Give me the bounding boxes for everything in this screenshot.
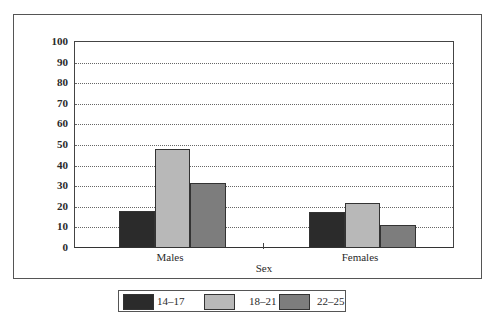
x-axis-title: Sex <box>240 262 288 274</box>
legend-label-14-17: 14–17 <box>157 295 185 307</box>
bar-females-22-25 <box>380 225 416 247</box>
bar-females-18-21 <box>345 203 381 247</box>
y-tick-label: 90 <box>28 56 68 68</box>
y-tick-label: 0 <box>28 241 68 253</box>
legend-swatch-22-25 <box>279 294 310 310</box>
gridline <box>75 83 453 84</box>
y-tick-label: 70 <box>28 97 68 109</box>
y-tick-label: 30 <box>28 179 68 191</box>
bar-males-18-21 <box>155 149 191 247</box>
gridline <box>75 186 453 187</box>
legend-swatch-14-17 <box>123 294 154 310</box>
y-tick-label: 50 <box>28 138 68 150</box>
plot-area <box>74 41 454 248</box>
bar-males-14-17 <box>119 211 155 247</box>
gridline <box>75 63 453 64</box>
y-tick-label: 20 <box>28 200 68 212</box>
y-tick-label: 80 <box>28 76 68 88</box>
x-axis-tick <box>263 243 264 249</box>
legend-swatch-18-21 <box>204 294 235 310</box>
x-category-males: Males <box>140 251 200 263</box>
gridline <box>75 124 453 125</box>
legend-label-22-25: 22–25 <box>317 295 345 307</box>
y-tick-label: 100 <box>28 35 68 47</box>
bar-males-22-25 <box>190 183 226 247</box>
y-tick-label: 10 <box>28 220 68 232</box>
gridline <box>75 145 453 146</box>
gridline <box>75 104 453 105</box>
x-category-females: Females <box>330 251 390 263</box>
gridline <box>75 207 453 208</box>
y-tick-label: 60 <box>28 117 68 129</box>
legend-label-18-21: 18–21 <box>249 295 277 307</box>
gridline <box>75 166 453 167</box>
bar-females-14-17 <box>309 212 345 247</box>
legend: 14–17 18–21 22–25 <box>118 290 346 312</box>
y-tick-label: 40 <box>28 159 68 171</box>
